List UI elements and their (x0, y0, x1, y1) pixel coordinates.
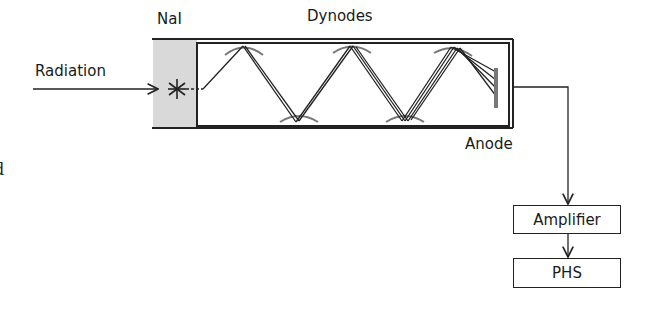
electron-cascade (203, 46, 496, 122)
signal-wire (513, 87, 568, 204)
dynodes-label: Dynodes (307, 9, 373, 24)
nai-label: NaI (157, 12, 182, 27)
anode-plate (494, 68, 498, 108)
cropped-text-fragment: d (0, 160, 4, 179)
anode-label: Anode (465, 137, 513, 152)
amplifier-label: Amplifier (533, 211, 601, 229)
nai-crystal (153, 40, 197, 127)
phs-block: PHS (513, 258, 621, 288)
photomultiplier-tube (152, 39, 513, 128)
amplifier-block: Amplifier (513, 205, 621, 234)
phs-label: PHS (552, 264, 582, 282)
radiation-label: Radiation (35, 64, 106, 79)
